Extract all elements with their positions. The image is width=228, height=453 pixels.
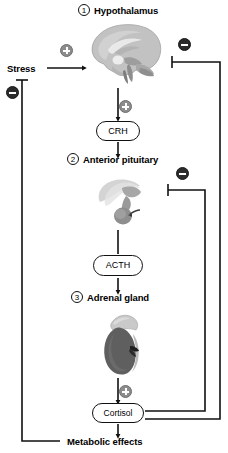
acth-node: ACTH [93, 255, 143, 276]
hypothalamus-label: Hypothalamus [94, 6, 158, 16]
metabolic-effects-label: Metabolic effects [67, 437, 142, 447]
crh-node: CRH [96, 121, 140, 141]
step-number-1: 1 [78, 4, 90, 16]
edge-cortisol-inhibits-pituitary [145, 190, 205, 411]
anterior-pituitary-label: Anterior pituitary [83, 155, 158, 165]
pituitary-gland-icon [92, 172, 154, 230]
cortisol-node: Cortisol [92, 403, 144, 423]
edge-metabolic-inhibits-stress [22, 80, 60, 441]
brain-sagittal-icon [84, 20, 166, 86]
edge-cortisol-inhibits-hypothalamus [145, 62, 220, 419]
plus-sign-hypothalamus-to-crh [119, 100, 132, 113]
minus-sign-cortisol-inhibits-pituitary [176, 167, 189, 180]
minus-sign-cortisol-inhibits-stress [6, 86, 19, 99]
step-number-3: 3 [71, 291, 83, 303]
plus-sign-stress-to-hypothalamus [60, 44, 73, 57]
hpa-axis-diagram: Stress 1 Hypothalamus CRH 2 Anterior pit… [0, 0, 228, 453]
adrenal-kidney-icon [97, 308, 149, 380]
step-number-2: 2 [67, 153, 79, 165]
plus-sign-adrenal-to-cortisol [119, 385, 132, 398]
minus-sign-cortisol-inhibits-hypothalamus [178, 38, 191, 51]
adrenal-gland-label: Adrenal gland [87, 293, 149, 303]
stress-label: Stress [7, 64, 35, 74]
